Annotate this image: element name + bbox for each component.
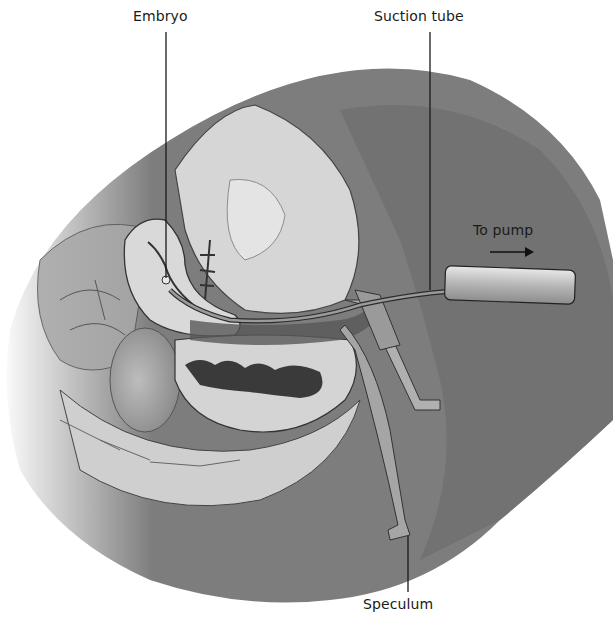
- pump-connector: [444, 266, 575, 305]
- diagram-canvas: Embryo Suction tube To pump Speculum: [0, 0, 613, 625]
- suction-tube-label: Suction tube: [374, 8, 464, 24]
- anatomy-illustration: [0, 0, 613, 625]
- embryo-label: Embryo: [133, 8, 188, 24]
- speculum-label: Speculum: [363, 596, 433, 612]
- to-pump-label: To pump: [473, 222, 533, 238]
